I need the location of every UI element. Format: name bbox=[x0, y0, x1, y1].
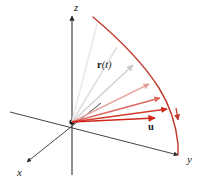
trajectory-group bbox=[93, 17, 178, 155]
trajectory-direction-arrow bbox=[176, 108, 178, 120]
y-axis-label: y bbox=[186, 153, 192, 165]
axes-group bbox=[10, 16, 178, 175]
curve-label-r-of-t: r(t) bbox=[97, 59, 112, 71]
z-axis-label: z bbox=[73, 1, 79, 13]
x-axis-label: x bbox=[16, 166, 22, 178]
diagram-canvas: z y x r(t) u bbox=[0, 0, 200, 181]
trajectory-curve bbox=[93, 17, 178, 155]
fan-ray-1 bbox=[72, 24, 97, 122]
position-vector-fan bbox=[72, 24, 167, 122]
vector-u-label: u bbox=[148, 121, 154, 132]
vector-function-diagram: z y x r(t) u bbox=[0, 0, 200, 181]
curve-label-paren-close: ) bbox=[107, 59, 112, 71]
